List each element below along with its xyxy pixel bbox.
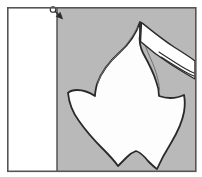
left-white-strip <box>8 8 57 171</box>
illustration-canvas: Leaf cut-out illustration Line drawing o… <box>0 0 202 177</box>
leaf-cutout-figure: Leaf cut-out illustration Line drawing o… <box>0 0 202 177</box>
